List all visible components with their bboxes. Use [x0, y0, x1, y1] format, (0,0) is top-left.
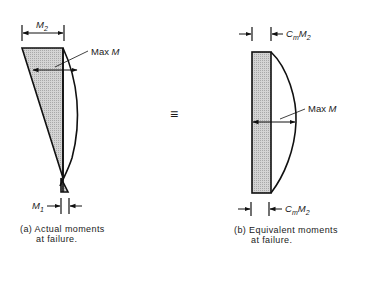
- cm-m2-top-dimension: CmM2: [239, 27, 311, 41]
- caption-b-line1: (b) Equivalent moments: [234, 225, 338, 235]
- max-m-label-a: Max M: [91, 46, 120, 57]
- m1-dimension: M1: [32, 198, 82, 214]
- caption-a-line1: (a) Actual moments: [20, 224, 105, 234]
- panel-b-equivalent-moments: CmM2 Max M CmM2 (b) Equivalent moments a…: [234, 27, 338, 245]
- m2-label: M2: [36, 19, 48, 32]
- panel-a-actual-moments: M2 Max M M1 (a) Actual moments at failur…: [20, 19, 120, 244]
- cm-m2-bottom-dimension: CmM2: [238, 202, 310, 216]
- caption-a-line2: at failure.: [36, 234, 77, 244]
- m2-dimension: M2: [22, 19, 64, 41]
- moment-diagram-figure: M2 Max M M1 (a) Actual moments at failur…: [0, 0, 368, 281]
- equivalence-symbol: ≡: [170, 106, 178, 122]
- hatched-moment-area: [22, 48, 63, 178]
- cm-m2-top-label: CmM2: [286, 28, 311, 41]
- cm-m2-bottom-label: CmM2: [285, 203, 310, 216]
- caption-b-line2: at failure.: [251, 235, 292, 245]
- max-m-label-b: Max M: [308, 103, 337, 114]
- m1-label: M1: [32, 200, 44, 213]
